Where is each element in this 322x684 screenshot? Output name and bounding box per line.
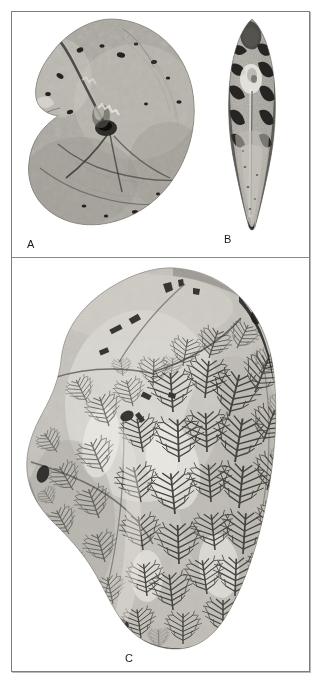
specimen-b-image xyxy=(221,17,283,233)
figure-plate: A B C xyxy=(0,0,322,684)
figure-label-a: A xyxy=(27,239,35,250)
plate-row-divider xyxy=(12,257,310,258)
specimen-a-image xyxy=(18,16,203,234)
figure-label-b: B xyxy=(224,234,232,245)
figure-label-c: C xyxy=(125,653,133,664)
specimen-c-image xyxy=(23,266,289,651)
